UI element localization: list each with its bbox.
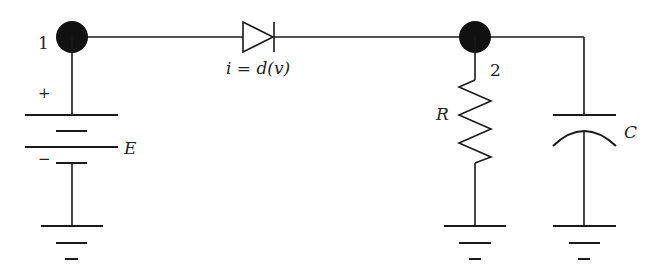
ground-icon-capacitor — [553, 226, 616, 259]
capacitor-label-C: C — [624, 124, 637, 141]
diode-relation-label: i = d(v) — [226, 60, 290, 77]
minus-sign: − — [38, 152, 51, 167]
battery-icon — [25, 37, 118, 226]
plus-sign: + — [38, 86, 51, 101]
node-1-label: 1 — [38, 35, 49, 52]
capacitor-icon — [553, 115, 616, 226]
resistor-label-R: R — [436, 106, 449, 123]
resistor-icon — [459, 37, 491, 226]
node-2-label: 2 — [490, 62, 501, 79]
source-label-E: E — [124, 140, 136, 157]
circuit-diagram — [0, 0, 659, 279]
ground-icon-battery — [41, 226, 103, 259]
ground-icon-resistor — [444, 226, 506, 259]
diode-icon — [243, 22, 274, 52]
